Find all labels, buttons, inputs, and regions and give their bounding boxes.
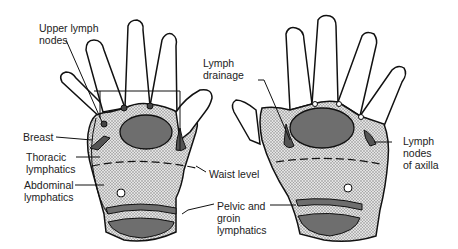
- label-lymph-nodes-axilla: Lymph nodes of axilla: [403, 135, 439, 171]
- right-breast-region: [290, 108, 354, 148]
- right-middle-finger: [312, 16, 338, 105]
- label-lymph-drainage: Lymph drainage: [203, 57, 244, 81]
- label-abdominal-lymphatics: Abdominal lymphatics: [24, 179, 74, 203]
- left-breast-region: [120, 115, 172, 149]
- label-upper-lymph-nodes: Upper lymph nodes: [39, 22, 99, 46]
- left-middle-finger: [125, 20, 150, 108]
- left-node-2: [121, 105, 127, 111]
- label-breast: Breast: [23, 131, 53, 143]
- label-thoracic-lymphatics: Thoracic lymphatics: [26, 151, 76, 175]
- left-node-3: [147, 103, 153, 109]
- right-index-finger: [286, 28, 312, 110]
- label-pelvic-groin-lymphatics: Pelvic and groin lymphatics: [217, 200, 267, 236]
- right-thumb: [232, 100, 260, 144]
- label-waist-level: Waist level: [209, 168, 259, 180]
